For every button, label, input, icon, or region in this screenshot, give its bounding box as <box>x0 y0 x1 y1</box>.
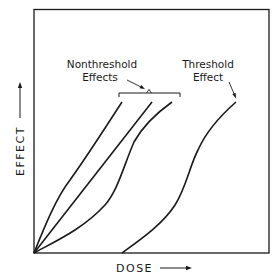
nonthreshold-label-line2: Effects <box>82 71 118 83</box>
threshold-curve <box>122 102 236 253</box>
bracket-caret <box>147 90 152 94</box>
nonthreshold-bracket <box>119 93 180 97</box>
plot-frame <box>34 10 269 254</box>
nonthreshold-arrowhead-icon <box>140 85 146 89</box>
y-axis-arrowhead-icon <box>18 82 22 88</box>
x-axis-label: DOSE <box>116 262 153 275</box>
threshold-label-line2: Effect <box>193 71 223 83</box>
nonthreshold-curve-1 <box>34 102 122 253</box>
threshold-label-line1: Threshold <box>181 58 234 70</box>
dose-response-diagram: Nonthreshold Effects Threshold Effect DO… <box>0 0 278 279</box>
nonthreshold-curve-2 <box>34 102 152 253</box>
nonthreshold-label-line1: Nonthreshold <box>67 58 137 70</box>
y-axis-label: EFFECT <box>14 126 27 176</box>
x-axis-arrowhead-icon <box>186 266 192 270</box>
threshold-arrowhead-icon <box>232 93 236 99</box>
